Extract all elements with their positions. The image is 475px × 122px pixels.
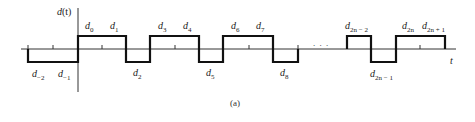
figure-caption: (a): [230, 98, 240, 108]
symbol-label: d2n + 1: [422, 20, 445, 34]
symbol-label: d2n − 2: [345, 20, 368, 34]
symbol-label: d8: [280, 67, 289, 81]
symbol-label: d6: [231, 20, 240, 34]
symbol-labels-left: d−2 d−1 d0 d1 d2 d3 d4 d5 d6 d7 d8: [32, 20, 289, 82]
symbol-label: d0: [85, 20, 94, 34]
x-axis-label: t: [450, 55, 453, 66]
symbol-label: d5: [206, 67, 215, 81]
y-axis-label: d(t): [57, 6, 71, 18]
symbol-label: d2n: [402, 20, 415, 34]
symbol-label: d−2: [32, 68, 45, 82]
symbol-label: d2n − 1: [370, 68, 393, 82]
symbol-label: d4: [183, 20, 192, 34]
ellipsis: . . .: [313, 38, 329, 48]
waveform-diagram: . . . d(t) t d−2 d−1 d0 d1 d2 d3 d4 d5 d…: [0, 0, 475, 122]
symbol-label: d−1: [58, 68, 71, 82]
symbol-label: d7: [256, 20, 265, 34]
symbol-label: d1: [110, 20, 119, 34]
symbol-label: d3: [158, 20, 167, 34]
symbol-label: d2: [133, 67, 142, 81]
